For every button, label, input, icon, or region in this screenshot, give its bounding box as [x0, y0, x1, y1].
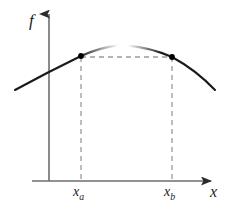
tick-label-xa-subscript: a [79, 191, 84, 202]
function-plot-svg [0, 0, 239, 210]
y-axis-label: f [29, 12, 34, 29]
x-axis-label: x [210, 184, 217, 200]
function-curve-left [15, 45, 118, 90]
figure-container: f x xa xb [0, 0, 239, 210]
tick-label-xb-subscript: b [170, 191, 175, 202]
data-point-xa [78, 53, 84, 59]
tick-label-xa: xa [73, 185, 84, 202]
data-point-xb [169, 54, 175, 60]
tick-label-xb: xb [164, 185, 175, 202]
